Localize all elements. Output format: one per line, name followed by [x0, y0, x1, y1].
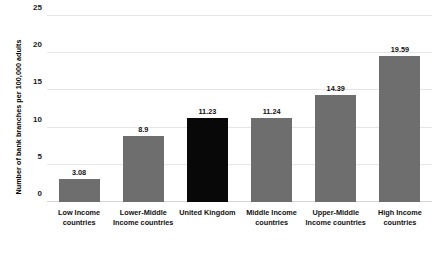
x-axis-category-label: Low Incomecountries: [47, 208, 111, 227]
bar-group: 11.23: [187, 16, 228, 202]
bar-value-label: 3.08: [47, 168, 112, 177]
bar-group: 14.39: [315, 16, 356, 202]
x-axis-label-line: Lower-Middle: [111, 208, 175, 218]
bar-value-label: 19.59: [367, 45, 432, 54]
bar[interactable]: [379, 56, 420, 202]
x-axis-label-line: Low Income: [47, 208, 111, 218]
bar[interactable]: [251, 118, 292, 202]
x-axis-label-line: countries: [240, 218, 304, 228]
x-axis-label-line: Income countries: [304, 218, 368, 228]
bar-group: 8.9: [123, 16, 164, 202]
bar-value-label: 8.9: [111, 125, 176, 134]
x-axis-label-line: High Income: [368, 208, 432, 218]
y-axis-tick-label: 0: [38, 189, 42, 198]
x-axis-label-line: countries: [368, 218, 432, 228]
x-axis-category-label: Upper-MiddleIncome countries: [304, 208, 368, 227]
bar-series: 3.088.911.2311.2414.3919.59: [47, 16, 432, 202]
y-axis-tick-label: 15: [33, 77, 42, 86]
x-axis-category-labels: Low IncomecountriesLower-MiddleIncome co…: [47, 208, 432, 248]
y-axis-tick-label: 10: [33, 114, 42, 123]
x-axis-category-label: Middle Incomecountries: [240, 208, 304, 227]
bar-group: 19.59: [379, 16, 420, 202]
bar-value-label: 14.39: [303, 84, 368, 93]
bar[interactable]: [187, 118, 228, 202]
x-axis-label-line: United Kingdom: [175, 208, 239, 218]
y-axis-tick-labels: 0510152025: [16, 16, 42, 202]
x-axis-category-label: High Incomecountries: [368, 208, 432, 227]
x-axis-label-line: countries: [47, 218, 111, 228]
x-axis-label-line: Income countries: [111, 218, 175, 228]
plot-area: 3.088.911.2311.2414.3919.59: [47, 16, 432, 202]
bar[interactable]: [123, 136, 164, 202]
x-axis-label-line: Middle Income: [240, 208, 304, 218]
y-axis-tick-label: 25: [33, 3, 42, 12]
bar-group: 3.08: [59, 16, 100, 202]
y-axis-tick-label: 20: [33, 40, 42, 49]
bar-chart: Number of bank branches per 100,000 adul…: [0, 0, 434, 258]
bar-value-label: 11.24: [239, 107, 304, 116]
bar-value-label: 11.23: [175, 107, 240, 116]
y-axis-tick-label: 5: [38, 151, 42, 160]
x-axis-category-label: United Kingdom: [175, 208, 239, 218]
x-axis-label-line: Upper-Middle: [304, 208, 368, 218]
bar[interactable]: [315, 95, 356, 202]
x-axis-category-label: Lower-MiddleIncome countries: [111, 208, 175, 227]
bar[interactable]: [59, 179, 100, 202]
bar-group: 11.24: [251, 16, 292, 202]
